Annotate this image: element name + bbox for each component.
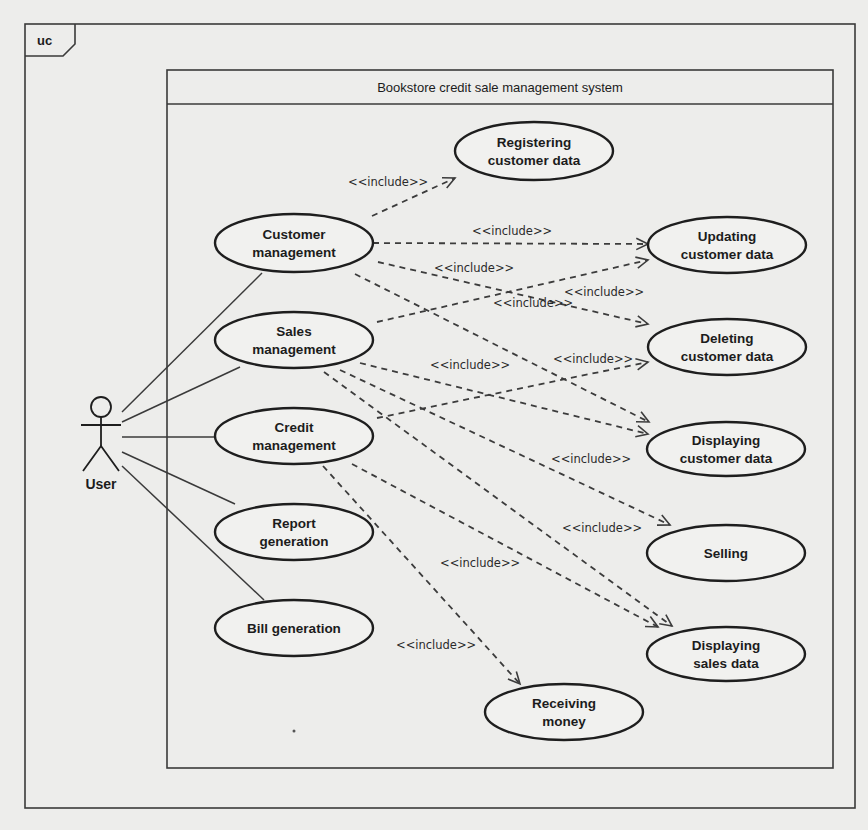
use-case-receiving-money[interactable]: Receivingmoney: [485, 684, 643, 740]
use-case-label: Sales: [276, 324, 311, 339]
use-case-ellipse: [485, 684, 643, 740]
use-case-customer-management[interactable]: Customermanagement: [215, 214, 373, 272]
use-case-label: Displaying: [692, 433, 760, 448]
use-case-registering-customer-data[interactable]: Registeringcustomer data: [455, 122, 613, 180]
include-stereotype-label: <<include>>: [551, 452, 631, 466]
use-case-label: sales data: [693, 656, 759, 671]
include-line: [352, 464, 658, 627]
include-relationships: <<include>><<include>><<include>><<inclu…: [323, 175, 672, 684]
use-case-bill-generation[interactable]: Bill generation: [215, 600, 373, 656]
actor-legs-icon: [83, 446, 119, 471]
use-case-label: generation: [259, 534, 328, 549]
use-case-ellipse: [215, 504, 373, 560]
include-line: [377, 362, 648, 418]
use-case-label: customer data: [681, 349, 774, 364]
use-case-label: management: [252, 438, 336, 453]
include-stereotype-label: <<include>>: [562, 521, 642, 535]
use-case-label: customer data: [681, 247, 774, 262]
system-title: Bookstore credit sale management system: [377, 80, 623, 95]
actor-label: User: [85, 476, 117, 492]
use-case-updating-customer-data[interactable]: Updatingcustomer data: [648, 217, 806, 273]
use-case-label: Credit: [274, 420, 314, 435]
include-stereotype-label: <<include>>: [472, 224, 552, 238]
include-line: [373, 243, 648, 244]
stray-dot: [293, 730, 296, 733]
open-arrowhead-icon: [636, 412, 649, 422]
use-case-label: Selling: [704, 546, 748, 561]
include-stereotype-label: <<include>>: [434, 261, 514, 275]
use-case-ellipse: [648, 319, 806, 375]
use-case-label: Displaying: [692, 638, 760, 653]
include-sales-management-to-selling[interactable]: <<include>>: [340, 370, 670, 525]
use-case-label: Receiving: [532, 696, 596, 711]
use-case-displaying-customer-data[interactable]: Displayingcustomer data: [647, 422, 805, 476]
use-case-label: management: [252, 245, 336, 260]
use-case-credit-management[interactable]: Creditmanagement: [215, 408, 373, 464]
include-line: [340, 370, 670, 525]
use-case-label: Updating: [698, 229, 757, 244]
include-stereotype-label: <<include>>: [553, 352, 633, 366]
include-stereotype-label: <<include>>: [348, 175, 428, 189]
use-case-ellipse: [455, 122, 613, 180]
use-case-selling[interactable]: Selling: [647, 525, 805, 581]
include-line: [360, 363, 648, 434]
include-stereotype-label: <<include>>: [440, 556, 520, 570]
use-case-label: Report: [272, 516, 316, 531]
open-arrowhead-icon: [635, 426, 648, 437]
use-case-label: Deleting: [700, 331, 753, 346]
use-case-label: customer data: [488, 153, 581, 168]
use-case-deleting-customer-data[interactable]: Deletingcustomer data: [648, 319, 806, 375]
include-stereotype-label: <<include>>: [396, 638, 476, 652]
use-case-ellipse: [215, 312, 373, 368]
use-case-label: Bill generation: [247, 621, 341, 636]
include-stereotype-label: <<include>>: [430, 358, 510, 372]
association-report-generation[interactable]: [122, 452, 235, 504]
include-stereotype-label: <<include>>: [493, 296, 573, 310]
decorations: [293, 730, 296, 733]
use-case-diagram: uc Bookstore credit sale management syst…: [0, 0, 868, 830]
use-case-label: customer data: [680, 451, 773, 466]
include-customer-management-to-registering-customer-data[interactable]: <<include>>: [348, 175, 455, 216]
actor-head-icon: [91, 397, 111, 417]
use-case-label: management: [252, 342, 336, 357]
use-case-sales-management[interactable]: Salesmanagement: [215, 312, 373, 368]
frame-tag-label: uc: [37, 33, 52, 48]
include-credit-management-to-displaying-sales-data[interactable]: <<include>>: [352, 464, 658, 627]
use-case-report-generation[interactable]: Reportgeneration: [215, 504, 373, 560]
use-case-label: money: [542, 714, 586, 729]
include-sales-management-to-displaying-sales-data[interactable]: <<include>>: [324, 372, 672, 626]
include-stereotype-label: <<include>>: [564, 285, 644, 299]
use-case-ellipse: [647, 422, 805, 476]
use-cases: CustomermanagementSalesmanagementCreditm…: [215, 122, 806, 740]
include-credit-management-to-deleting-customer-data[interactable]: <<include>>: [377, 358, 648, 418]
include-line: [324, 372, 672, 626]
actor-user[interactable]: User: [81, 397, 121, 492]
use-case-label: Registering: [497, 135, 571, 150]
use-case-ellipse: [647, 627, 805, 681]
use-case-ellipse: [215, 408, 373, 464]
include-credit-management-to-receiving-money[interactable]: <<include>>: [323, 466, 520, 684]
include-customer-management-to-updating-customer-data[interactable]: <<include>>: [373, 224, 648, 250]
use-case-ellipse: [648, 217, 806, 273]
use-case-ellipse: [215, 214, 373, 272]
use-case-displaying-sales-data[interactable]: Displayingsales data: [647, 627, 805, 681]
use-case-label: Customer: [262, 227, 326, 242]
